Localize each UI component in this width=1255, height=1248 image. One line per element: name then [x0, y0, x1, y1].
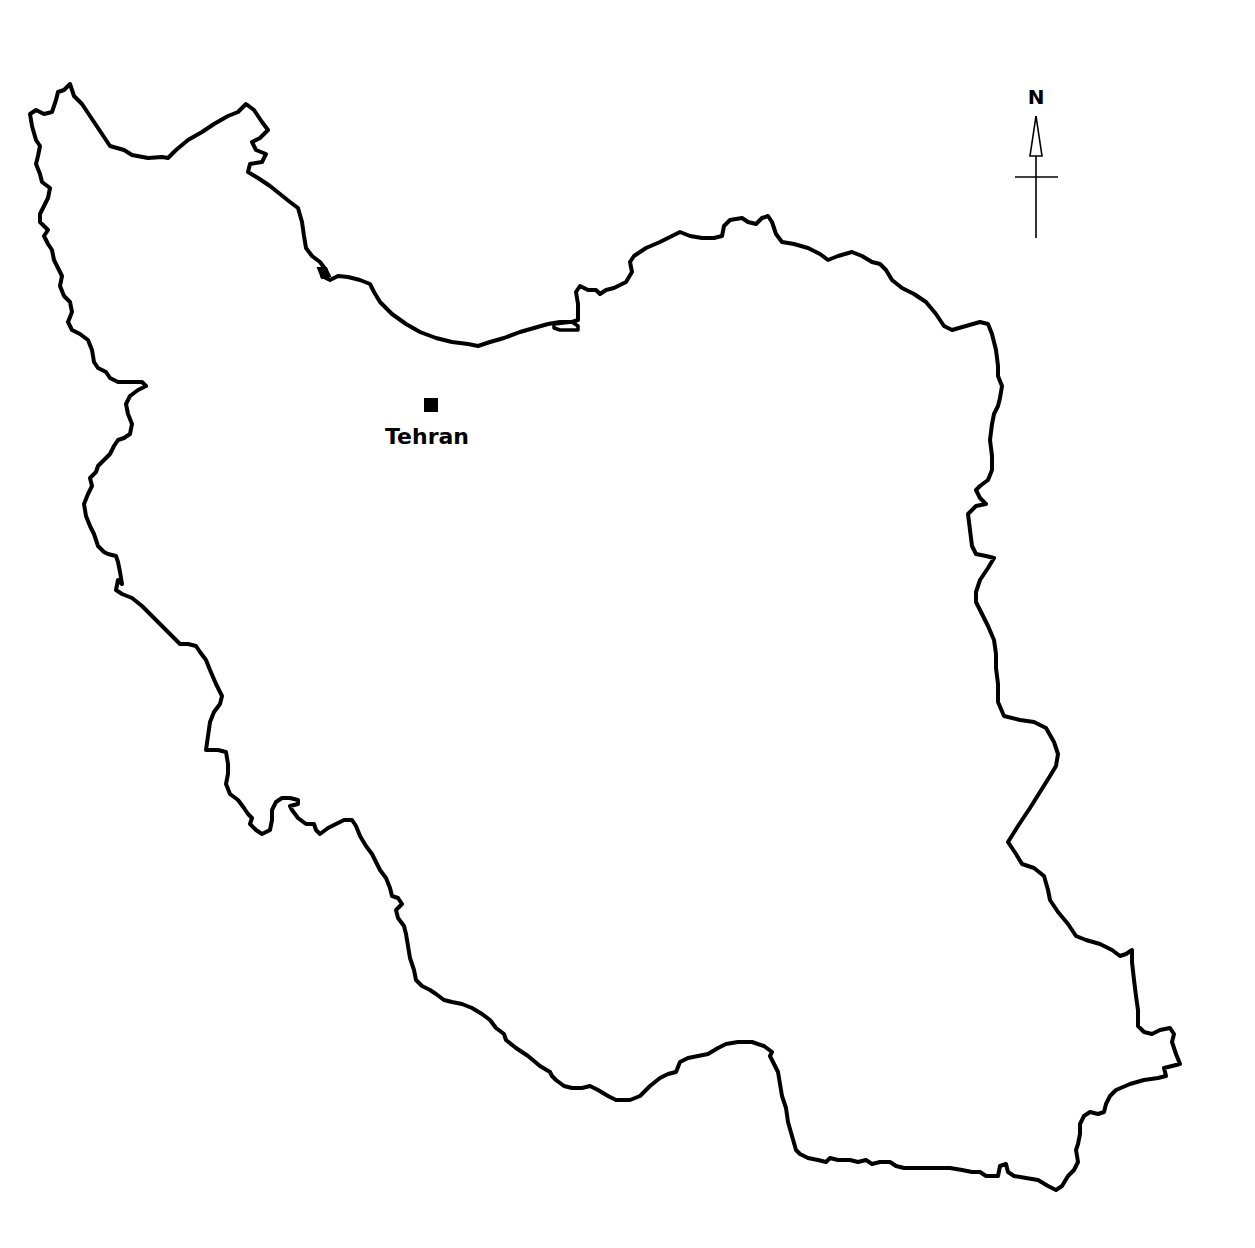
country-outline-iran [30, 84, 1180, 1190]
tehran-label: Tehran [385, 424, 469, 449]
north-arrow-icon: N [1015, 85, 1058, 238]
map-canvas: Tehran N [0, 0, 1255, 1248]
tehran-marker [424, 398, 438, 412]
north-label: N [1028, 85, 1045, 109]
